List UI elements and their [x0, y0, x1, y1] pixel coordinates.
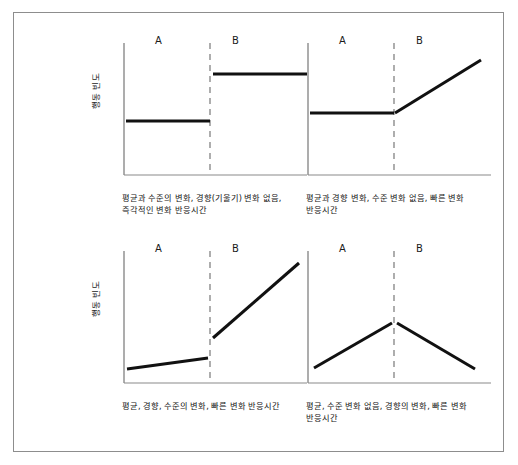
plot-area: A B: [276, 241, 494, 399]
phase-label-a: A: [155, 35, 162, 46]
series-phase-a: [127, 358, 208, 369]
plot-svg-trend-reversal: [276, 241, 494, 399]
phase-label-a: A: [339, 35, 346, 46]
figure-frame: A B 행동 빈도 평균과 수준의 변화, 경향(기울기) 변화 없음, 즉각적…: [13, 12, 504, 452]
panel-caption: 평균, 수준 변화 없음, 경향의 변화, 빠른 변화 반응시간: [306, 401, 498, 424]
series-phase-a: [314, 323, 392, 368]
phase-label-b: B: [232, 243, 239, 254]
panel-grid: A B 행동 빈도 평균과 수준의 변화, 경향(기울기) 변화 없음, 즉각적…: [14, 13, 503, 451]
chart-panel-trend-change: A B 평균과 경향 변화, 수준 변화 없음, 빠른 변화 반응시간: [276, 33, 494, 233]
series-phase-b: [395, 60, 481, 113]
plot-area: A B: [276, 33, 494, 191]
phase-label-b: B: [416, 35, 423, 46]
y-axis-label: 행동 빈도: [89, 60, 101, 122]
panel-caption: 평균과 경향 변화, 수준 변화 없음, 빠른 변화 반응시간: [306, 193, 498, 216]
series-phase-b: [397, 323, 475, 369]
y-axis-label: 행동 빈도: [89, 268, 101, 330]
plot-svg-trend-change: [276, 33, 494, 191]
phase-label-a: A: [339, 243, 346, 254]
phase-label-b: B: [416, 243, 423, 254]
phase-label-a: A: [155, 243, 162, 254]
phase-label-b: B: [232, 35, 239, 46]
chart-panel-trend-reversal: A B 평균, 수준 변화 없음, 경향의 변화, 빠른 변화 반응시간: [276, 241, 494, 441]
